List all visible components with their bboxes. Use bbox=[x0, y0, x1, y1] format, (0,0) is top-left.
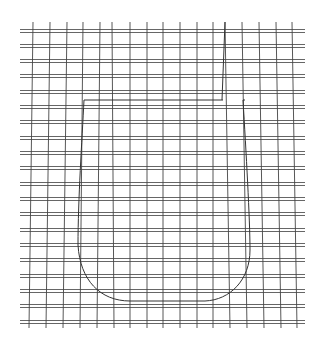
vertical-grid-line bbox=[242, 22, 247, 328]
thin-vertical-line bbox=[222, 22, 225, 100]
distorted-grid-diagram bbox=[0, 0, 327, 352]
vertical-grid-line bbox=[292, 22, 297, 328]
vertical-grid-line bbox=[112, 22, 114, 328]
vertical-grid-line bbox=[225, 22, 230, 328]
vertical-grid-line bbox=[63, 22, 67, 328]
vertical-grid-lines bbox=[29, 22, 297, 328]
vertical-grid-line bbox=[46, 22, 50, 328]
diagram-canvas bbox=[0, 0, 327, 352]
vertical-grid-line bbox=[29, 22, 33, 328]
horizontal-grid-lines bbox=[20, 30, 305, 324]
vertical-grid-line bbox=[97, 22, 100, 328]
vertical-grid-line bbox=[276, 22, 281, 328]
vertical-grid-line bbox=[259, 22, 264, 328]
